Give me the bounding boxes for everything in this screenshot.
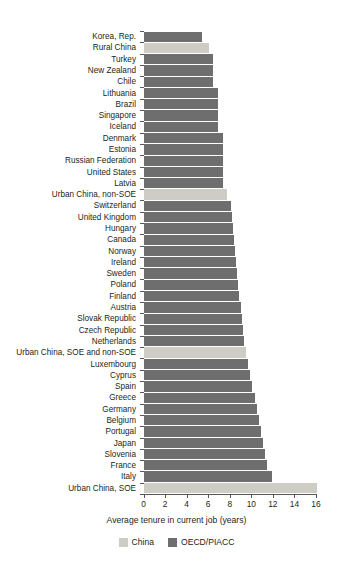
bar-sweden — [144, 268, 238, 278]
category-tick — [140, 438, 144, 439]
bar-row — [144, 110, 317, 121]
bar-rural-china — [144, 43, 210, 53]
category-tick — [140, 155, 144, 156]
bar-united-states — [144, 167, 224, 177]
bar-slovenia — [144, 449, 266, 459]
bar-belgium — [144, 415, 259, 425]
category-tick — [140, 167, 144, 168]
bar-row — [144, 268, 317, 279]
bar-portugal — [144, 426, 262, 436]
category-tick — [140, 358, 144, 359]
category-label: Poland — [111, 280, 137, 289]
x-tick — [316, 494, 317, 498]
legend-swatch-china-icon — [119, 538, 128, 547]
bar-row — [144, 426, 317, 437]
category-label: Portugal — [106, 427, 137, 436]
bar-rows — [144, 31, 317, 494]
category-label: Urban China, SOE and non-SOE — [16, 348, 136, 357]
category-tick — [140, 212, 144, 213]
bar-row — [144, 358, 317, 369]
category-label: Austria — [111, 303, 136, 312]
bar-urban-china-non-soe — [144, 189, 227, 199]
bar-lithuania — [144, 88, 218, 98]
bar-row — [144, 290, 317, 301]
x-tick — [165, 494, 166, 498]
bar-czech-republic — [144, 325, 243, 335]
category-label: United Kingdom — [78, 213, 136, 222]
bar-row — [144, 121, 317, 132]
category-tick — [140, 31, 144, 32]
bar-row — [144, 189, 317, 200]
bar-brazil — [144, 99, 218, 109]
category-axis-labels: Korea, Rep.Rural ChinaTurkeyNew ZealandC… — [0, 31, 140, 494]
category-tick — [140, 133, 144, 134]
x-tick-label: 16 — [311, 499, 320, 509]
bar-row — [144, 245, 317, 256]
chart-legend: China OECD/PIACC — [0, 537, 353, 547]
bar-singapore — [144, 110, 218, 120]
category-label: Korea, Rep. — [92, 32, 136, 41]
category-tick — [140, 223, 144, 224]
category-tick — [140, 404, 144, 405]
bar-row — [144, 155, 317, 166]
category-tick — [140, 302, 144, 303]
bar-row — [144, 448, 317, 459]
category-tick — [140, 313, 144, 314]
category-tick — [140, 291, 144, 292]
legend-label-china: China — [132, 537, 154, 547]
category-label: Switzerland — [94, 201, 136, 210]
category-tick — [140, 110, 144, 111]
category-tick — [140, 42, 144, 43]
category-label: Czech Republic — [79, 326, 136, 335]
category-tick — [140, 426, 144, 427]
category-tick — [140, 460, 144, 461]
bar-united-kingdom — [144, 212, 232, 222]
bar-row — [144, 234, 317, 245]
category-label: Denmark — [103, 134, 136, 143]
bar-row — [144, 313, 317, 324]
category-label: Cyprus — [110, 371, 136, 380]
bar-row — [144, 482, 317, 493]
x-tick — [187, 494, 188, 498]
bar-row — [144, 347, 317, 358]
bar-row — [144, 99, 317, 110]
bar-row — [144, 336, 317, 347]
category-tick — [140, 325, 144, 326]
category-tick — [140, 268, 144, 269]
bar-turkey — [144, 54, 213, 64]
category-label: Sweden — [106, 269, 136, 278]
bar-row — [144, 471, 317, 482]
category-label: France — [111, 461, 136, 470]
category-label: Urban China, SOE — [68, 484, 136, 493]
bar-row — [144, 460, 317, 471]
category-tick — [140, 54, 144, 55]
bar-new-zealand — [144, 65, 213, 75]
category-label: Turkey — [111, 55, 136, 64]
bar-row — [144, 302, 317, 313]
bar-korea-rep — [144, 32, 202, 42]
legend-label-oecd: OECD/PIACC — [181, 537, 234, 547]
bar-russian-federation — [144, 156, 224, 166]
bar-row — [144, 369, 317, 380]
x-tick-label: 8 — [227, 499, 232, 509]
bar-row — [144, 87, 317, 98]
x-tick — [230, 494, 231, 498]
category-tick — [140, 65, 144, 66]
bar-denmark — [144, 133, 224, 143]
category-tick — [140, 246, 144, 247]
category-label: Netherlands — [92, 337, 136, 346]
bar-row — [144, 381, 317, 392]
category-tick — [140, 76, 144, 77]
x-tick-label: 6 — [206, 499, 211, 509]
x-tick-label: 4 — [184, 499, 189, 509]
x-tick-label: 0 — [141, 499, 146, 509]
category-label: Spain — [115, 382, 136, 391]
category-tick — [140, 392, 144, 393]
bar-netherlands — [144, 336, 244, 346]
bar-row — [144, 324, 317, 335]
x-tick — [294, 494, 295, 498]
bar-row — [144, 133, 317, 144]
bar-row — [144, 437, 317, 448]
category-label: Germany — [102, 405, 136, 414]
category-tick — [140, 234, 144, 235]
